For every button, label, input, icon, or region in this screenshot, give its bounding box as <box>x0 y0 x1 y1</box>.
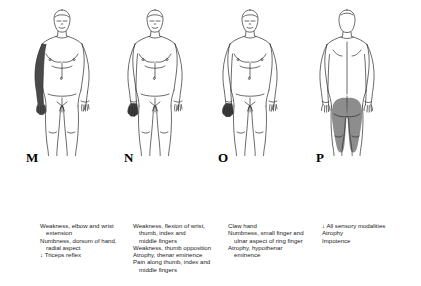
caption-line: Weakness, elbow and wrist <box>40 222 132 229</box>
panel-letter-p: P <box>316 150 324 166</box>
caption-line: radial aspect <box>40 244 132 251</box>
caption-line: middle fingers <box>133 237 227 244</box>
shaded-region-hand-n <box>128 104 138 117</box>
figure-panel-n <box>105 6 205 156</box>
caption-line: Pain along thumb, index and <box>133 258 227 265</box>
figure-row: M N O P <box>0 0 421 220</box>
caption-block-n: Weakness, flexion of wrist,thumb, index … <box>133 222 227 273</box>
figure-panel-m <box>12 6 112 156</box>
caption-line: eminence <box>228 251 320 258</box>
caption-line: Weakness, thumb opposition <box>133 244 227 251</box>
panel-letter-m: M <box>26 150 39 166</box>
body-diagram-anterior-n <box>105 6 205 156</box>
caption-line: middle fingers <box>133 266 227 273</box>
caption-line: Weakness, flexion of wrist, <box>133 222 227 229</box>
shaded-region-arm-m <box>35 44 46 115</box>
caption-line: Numbness, dorsum of hand, <box>40 237 132 244</box>
caption-block-m: Weakness, elbow and wristextensionNumbne… <box>40 222 132 258</box>
caption-row: Weakness, elbow and wristextensionNumbne… <box>0 222 421 286</box>
body-diagram-posterior-p <box>297 6 397 156</box>
caption-line: Atrophy, hypothenar <box>228 244 320 251</box>
panel-letter-o: O <box>218 150 228 166</box>
shaded-region-hand-o <box>222 104 233 117</box>
caption-block-o: Claw handNumbness, small finger andulnar… <box>228 222 320 258</box>
caption-line: Claw hand <box>228 222 320 229</box>
caption-line: Atrophy <box>322 229 417 236</box>
caption-line: ↓ All sensory modalities <box>322 222 417 229</box>
caption-line: Impotence <box>322 237 417 244</box>
figure-panel-p <box>297 6 397 156</box>
caption-line: Numbness, small finger and <box>228 229 320 236</box>
body-diagram-anterior-o <box>200 6 300 156</box>
caption-line: ↓ Triceps reflex <box>40 251 132 258</box>
body-diagram-anterior-m <box>12 6 112 156</box>
caption-line: extension <box>40 229 132 236</box>
panel-letter-n: N <box>124 150 134 166</box>
caption-block-p: ↓ All sensory modalitiesAtrophyImpotence <box>322 222 417 244</box>
caption-line: thumb, index and <box>133 229 227 236</box>
figure-panel-o <box>200 6 300 156</box>
caption-line: ulnar aspect of ring finger <box>228 237 320 244</box>
caption-line: Atrophy, thenar eminence <box>133 251 227 258</box>
